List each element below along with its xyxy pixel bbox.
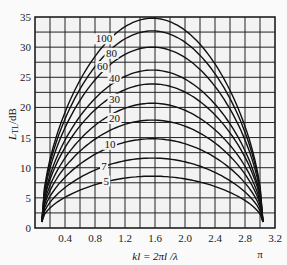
x-axis-ticks: 0.40.81.21.62.02.42.83.2 — [58, 232, 282, 244]
x-tick-label: 1.6 — [148, 232, 162, 244]
y-tick-label: 15 — [20, 132, 32, 144]
transmission-loss-chart: 10080604030201075 0.40.81.21.62.02.42.83… — [0, 0, 287, 265]
curve-label: 30 — [109, 93, 121, 105]
curve-label: 100 — [96, 32, 113, 44]
x-tick-label: 2.4 — [208, 232, 222, 244]
x-tick-label: 3.2 — [268, 232, 282, 244]
x-tick-label: 0.8 — [88, 232, 102, 244]
x-axis-label: kl = 2πl /λ — [132, 250, 178, 262]
y-tick-label: 20 — [20, 101, 32, 113]
curve-label: 60 — [97, 60, 109, 72]
x-tick-label: 2.0 — [178, 232, 192, 244]
y-tick-label: 35 — [20, 11, 32, 23]
x-tick-label: 2.8 — [238, 232, 252, 244]
curve-label: 10 — [105, 138, 117, 150]
curve-label: 40 — [109, 72, 121, 84]
x-tick-label: 1.2 — [118, 232, 132, 244]
curve-label: 20 — [109, 112, 121, 124]
y-tick-label: 5 — [26, 192, 32, 204]
y-axis-label: LTL/dB — [6, 108, 20, 141]
curve-label: 80 — [106, 47, 118, 59]
curve-label: 7 — [101, 160, 107, 172]
x-tick-label: 0.4 — [58, 232, 72, 244]
pi-label: π — [257, 248, 263, 260]
y-tick-label: 30 — [20, 41, 32, 53]
curve-label: 5 — [104, 175, 110, 187]
y-tick-label: 0 — [26, 222, 32, 234]
y-tick-label: 10 — [20, 162, 32, 174]
y-axis-ticks: 05101520253035 — [20, 11, 32, 234]
y-tick-label: 25 — [20, 71, 32, 83]
